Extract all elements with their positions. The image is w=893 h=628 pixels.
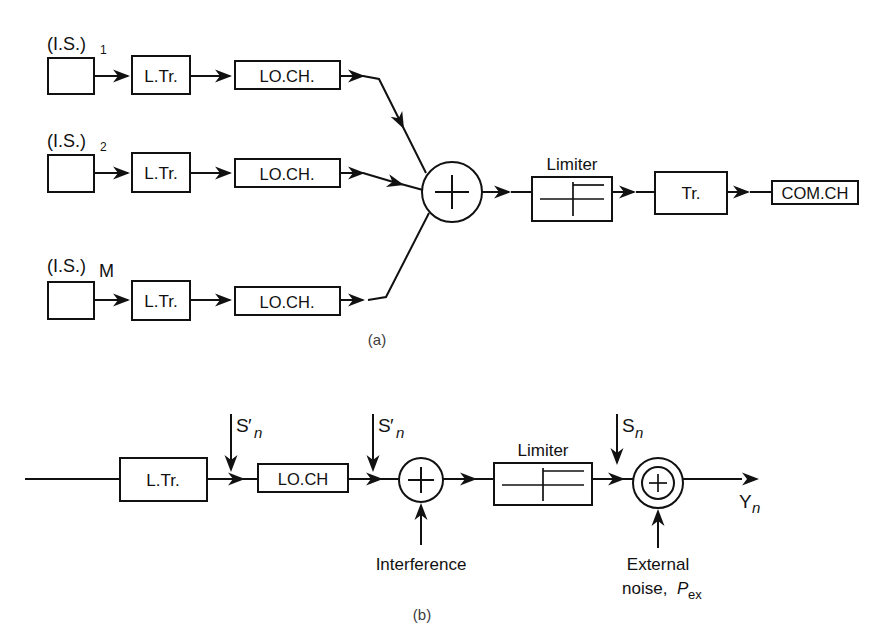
channel-label-3: LO.CH. <box>259 293 314 311</box>
figure-canvas: (I.S.) 1 L.Tr. LO.CH. <box>0 0 893 628</box>
limiter-block-b[interactable]: Limiter <box>494 441 592 505</box>
source-chain-2: (I.S.) 2 L.Tr. LO.CH. <box>47 131 423 192</box>
caption-b: (b) <box>413 606 431 623</box>
block-diagram-svg: (I.S.) 1 L.Tr. LO.CH. <box>0 0 893 628</box>
interference-input: Interference <box>376 503 467 574</box>
translator-label-3: L.Tr. <box>144 292 177 311</box>
translator-label-1: L.Tr. <box>144 67 177 86</box>
translator-block-b[interactable]: L.Tr. <box>120 458 207 501</box>
summing-junction-b[interactable] <box>399 458 443 502</box>
source-box-1[interactable] <box>48 58 94 94</box>
arrowhead-feed-2 <box>386 174 406 191</box>
source-label-3: (I.S.) <box>47 256 86 276</box>
external-noise-label-line2: noise, <box>622 579 667 598</box>
transmitter-label: Tr. <box>681 184 700 203</box>
adder-junction-b[interactable] <box>633 458 683 508</box>
signal-input-1: S ′ n <box>225 414 263 472</box>
source-subscript-1: 1 <box>100 43 107 57</box>
output-yn: Y n <box>683 473 760 517</box>
signal-input-2: S ′ n <box>367 414 405 472</box>
feed-line-3 <box>368 213 429 300</box>
interference-label: Interference <box>376 555 467 574</box>
signal-subscript-1: n <box>254 424 262 441</box>
diagram-a: (I.S.) 1 L.Tr. LO.CH. <box>47 34 858 348</box>
source-label-1: (I.S.) <box>47 34 86 54</box>
channel-label-2: LO.CH. <box>259 165 314 183</box>
signal-subscript-2: n <box>396 424 404 441</box>
feed-line-1 <box>363 76 426 173</box>
channel-label-1: LO.CH. <box>259 67 314 85</box>
caption-a: (a) <box>368 331 386 348</box>
signal-input-3: S n <box>611 414 644 465</box>
translator-label-b: L.Tr. <box>146 471 179 490</box>
common-channel-label: COM.CH <box>782 184 849 202</box>
source-box-2[interactable] <box>48 155 94 192</box>
signal-subscript-3: n <box>635 424 643 441</box>
translator-label-2: L.Tr. <box>144 164 177 183</box>
summing-junction-a[interactable] <box>422 162 482 222</box>
channel-block-b[interactable]: LO.CH <box>258 464 348 492</box>
channel-label-b: LO.CH <box>278 470 328 488</box>
source-subscript-3: M <box>99 261 114 281</box>
source-label-2: (I.S.) <box>47 131 86 151</box>
external-noise-label-line1: External <box>627 555 689 574</box>
output-label-base: Y <box>739 491 752 512</box>
source-subscript-2: 2 <box>100 140 107 154</box>
limiter-label-b: Limiter <box>517 441 568 460</box>
common-channel-output[interactable]: COM.CH <box>772 181 858 204</box>
source-box-3[interactable] <box>48 282 94 319</box>
diagram-b: L.Tr. S ′ n LO.CH S <box>25 414 760 623</box>
limiter-block-a[interactable]: Limiter <box>532 155 612 221</box>
signal-prime-1: ′ <box>248 415 252 436</box>
arrowhead-feed-1 <box>391 111 410 132</box>
signal-prime-2: ′ <box>390 415 394 436</box>
signal-label-3: S <box>622 415 635 436</box>
external-noise-subscript: ex <box>688 587 702 602</box>
external-noise-input: External noise, P ex <box>622 509 702 602</box>
output-label-subscript: n <box>752 499 760 516</box>
signal-label-1: S <box>236 415 249 436</box>
arrowhead-output-b <box>742 473 759 486</box>
limiter-label-a: Limiter <box>546 155 597 174</box>
signal-label-2: S <box>378 415 391 436</box>
source-chain-3: (I.S.) M L.Tr. LO.CH. <box>47 213 429 320</box>
transmitter-block[interactable]: Tr. <box>655 172 727 214</box>
